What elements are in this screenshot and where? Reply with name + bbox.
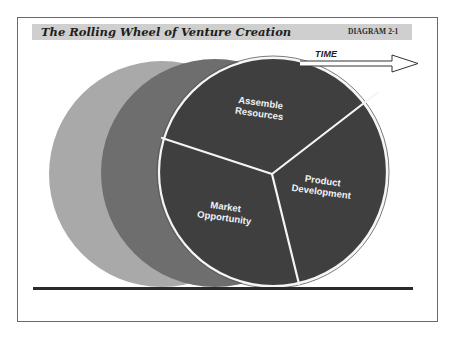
wheel-diagram <box>0 0 459 337</box>
time-label: TIME <box>315 49 337 59</box>
ground-line <box>33 287 413 290</box>
